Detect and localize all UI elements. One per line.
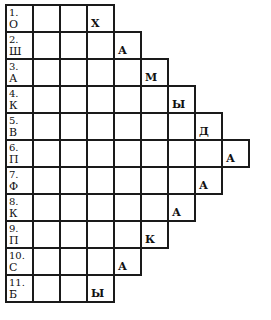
crossword-row-6: 6.П А bbox=[5, 139, 250, 168]
cell-start[interactable]: 8.К bbox=[5, 193, 34, 222]
row-number: 2. bbox=[9, 34, 19, 45]
first-letter: К bbox=[9, 208, 18, 220]
cell-start[interactable]: 7.Ф bbox=[5, 166, 34, 195]
cell-empty[interactable] bbox=[32, 193, 61, 222]
crossword-row-8: 8.К А bbox=[5, 193, 250, 222]
row-number: 10. bbox=[9, 250, 25, 261]
cell-last[interactable]: Х bbox=[86, 4, 115, 33]
cell-last[interactable]: М bbox=[140, 58, 169, 87]
cell-empty[interactable] bbox=[113, 166, 142, 195]
cell-empty[interactable] bbox=[86, 85, 115, 114]
cell-last[interactable]: А bbox=[221, 139, 250, 168]
cell-empty[interactable] bbox=[86, 112, 115, 141]
given-letter: Д bbox=[199, 126, 209, 138]
cell-last[interactable]: К bbox=[140, 220, 169, 249]
crossword-row-3: 3.А М bbox=[5, 58, 250, 87]
cell-empty[interactable] bbox=[59, 193, 88, 222]
cell-empty[interactable] bbox=[167, 139, 196, 168]
cell-empty[interactable] bbox=[167, 166, 196, 195]
cell-empty[interactable] bbox=[59, 274, 88, 303]
cell-empty[interactable] bbox=[59, 139, 88, 168]
row-number: 9. bbox=[9, 223, 19, 234]
cell-empty[interactable] bbox=[113, 193, 142, 222]
cell-empty[interactable] bbox=[32, 247, 61, 276]
cell-empty[interactable] bbox=[86, 247, 115, 276]
first-letter: В bbox=[9, 127, 17, 139]
cell-empty[interactable] bbox=[194, 139, 223, 168]
cell-start[interactable]: 4.К bbox=[5, 85, 34, 114]
cell-start[interactable]: 10.С bbox=[5, 247, 34, 276]
cell-empty[interactable] bbox=[140, 166, 169, 195]
row-number: 6. bbox=[9, 142, 19, 153]
cell-start[interactable]: 1.О bbox=[5, 4, 34, 33]
cell-empty[interactable] bbox=[86, 166, 115, 195]
cell-empty[interactable] bbox=[86, 193, 115, 222]
crossword-row-2: 2.Ш А bbox=[5, 31, 250, 60]
cell-empty[interactable] bbox=[32, 58, 61, 87]
crossword-row-10: 10.С А bbox=[5, 247, 250, 276]
row-number: 1. bbox=[9, 7, 19, 18]
cell-empty[interactable] bbox=[113, 220, 142, 249]
cell-empty[interactable] bbox=[59, 220, 88, 249]
first-letter: П bbox=[9, 235, 19, 247]
cell-empty[interactable] bbox=[32, 4, 61, 33]
cell-empty[interactable] bbox=[140, 193, 169, 222]
cell-last[interactable]: А bbox=[113, 31, 142, 60]
cell-empty[interactable] bbox=[32, 166, 61, 195]
cell-empty[interactable] bbox=[167, 112, 196, 141]
first-letter: А bbox=[9, 73, 17, 85]
cell-start[interactable]: 5.В bbox=[5, 112, 34, 141]
cell-last[interactable]: А bbox=[194, 166, 223, 195]
cell-start[interactable]: 3.А bbox=[5, 58, 34, 87]
cell-empty[interactable] bbox=[59, 85, 88, 114]
cell-empty[interactable] bbox=[140, 85, 169, 114]
cell-empty[interactable] bbox=[32, 139, 61, 168]
crossword-row-9: 9.П К bbox=[5, 220, 250, 249]
row-number: 8. bbox=[9, 196, 19, 207]
first-letter: Ш bbox=[9, 46, 22, 58]
cell-last[interactable]: А bbox=[113, 247, 142, 276]
cell-last[interactable]: Д bbox=[194, 112, 223, 141]
crossword-grid: 1.О Х 2.Ш А 3.А М 4.К Ы 5.В Д bbox=[5, 4, 250, 303]
cell-empty[interactable] bbox=[140, 139, 169, 168]
cell-start[interactable]: 9.П bbox=[5, 220, 34, 249]
cell-empty[interactable] bbox=[32, 31, 61, 60]
cell-empty[interactable] bbox=[59, 31, 88, 60]
cell-empty[interactable] bbox=[32, 274, 61, 303]
row-number: 7. bbox=[9, 169, 19, 180]
given-letter: А bbox=[118, 45, 127, 57]
given-letter: Ы bbox=[91, 288, 104, 300]
crossword-row-4: 4.К Ы bbox=[5, 85, 250, 114]
cell-empty[interactable] bbox=[59, 4, 88, 33]
cell-start[interactable]: 6.П bbox=[5, 139, 34, 168]
cell-empty[interactable] bbox=[86, 220, 115, 249]
cell-empty[interactable] bbox=[86, 139, 115, 168]
cell-empty[interactable] bbox=[113, 58, 142, 87]
cell-empty[interactable] bbox=[32, 112, 61, 141]
cell-last[interactable]: Ы bbox=[167, 85, 196, 114]
cell-last[interactable]: А bbox=[167, 193, 196, 222]
row-number: 3. bbox=[9, 61, 19, 72]
cell-empty[interactable] bbox=[86, 31, 115, 60]
first-letter: Ф bbox=[9, 181, 18, 193]
cell-empty[interactable] bbox=[59, 247, 88, 276]
first-letter: К bbox=[9, 100, 18, 112]
cell-start[interactable]: 2.Ш bbox=[5, 31, 34, 60]
cell-empty[interactable] bbox=[59, 112, 88, 141]
cell-empty[interactable] bbox=[32, 85, 61, 114]
cell-start[interactable]: 11.Б bbox=[5, 274, 34, 303]
cell-empty[interactable] bbox=[86, 58, 115, 87]
cell-last[interactable]: Ы bbox=[86, 274, 115, 303]
cell-empty[interactable] bbox=[140, 112, 169, 141]
cell-empty[interactable] bbox=[59, 166, 88, 195]
given-letter: К bbox=[145, 234, 155, 246]
cell-empty[interactable] bbox=[113, 85, 142, 114]
cell-empty[interactable] bbox=[32, 220, 61, 249]
first-letter: С bbox=[9, 262, 17, 274]
cell-empty[interactable] bbox=[59, 58, 88, 87]
cell-empty[interactable] bbox=[113, 139, 142, 168]
crossword-row-11: 11.Б Ы bbox=[5, 274, 250, 303]
cell-empty[interactable] bbox=[113, 112, 142, 141]
given-letter: М bbox=[145, 72, 157, 84]
first-letter: О bbox=[9, 19, 18, 31]
